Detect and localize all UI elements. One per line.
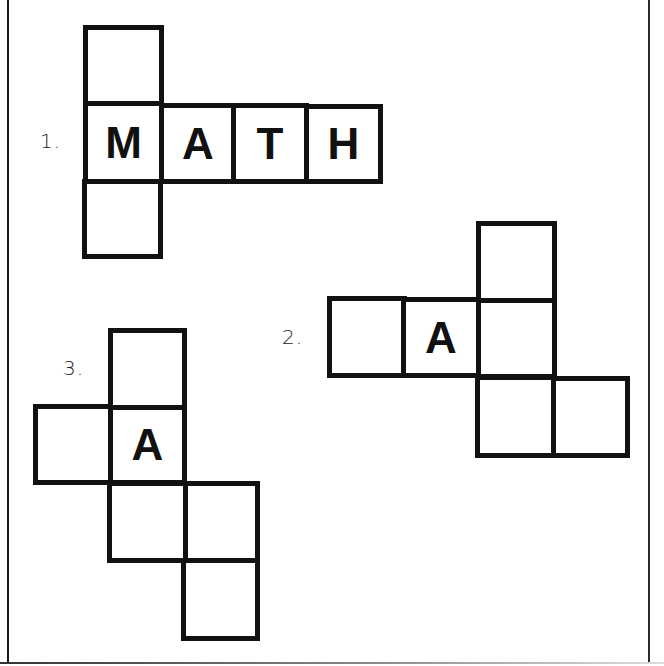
cell-letter: A — [182, 122, 214, 166]
net-cell — [183, 481, 260, 563]
net-cell — [476, 221, 557, 303]
net-cell: A — [108, 405, 187, 485]
bottom-rule — [0, 662, 664, 664]
net-label: 1. — [40, 131, 61, 151]
net-cell — [83, 25, 164, 106]
net-cell: M — [83, 101, 164, 184]
net-cell — [327, 296, 407, 378]
net-cell — [33, 404, 113, 485]
cell-letter: T — [257, 122, 284, 166]
net-cell — [181, 558, 260, 641]
cell-letter: M — [105, 121, 142, 165]
net-cell: T — [231, 103, 309, 184]
cell-letter: H — [328, 122, 360, 166]
net-cell — [475, 375, 556, 458]
net-cell — [82, 179, 163, 259]
net-cell: A — [401, 297, 481, 378]
net-cell: H — [304, 104, 383, 184]
net-cell — [107, 481, 188, 563]
net-cell — [551, 376, 630, 458]
net-cell — [476, 298, 557, 379]
cell-letter: A — [132, 423, 164, 467]
net-label: 2. — [282, 327, 303, 347]
net-cell — [108, 328, 187, 410]
net-cell: A — [159, 103, 237, 184]
net-label: 3. — [63, 358, 84, 378]
cell-letter: A — [425, 316, 457, 360]
